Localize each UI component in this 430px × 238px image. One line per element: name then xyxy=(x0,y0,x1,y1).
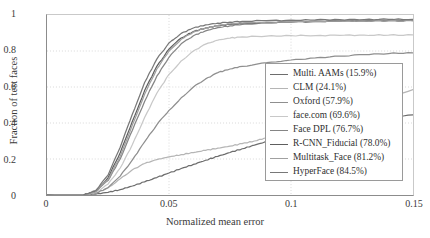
legend-swatch-line xyxy=(270,102,288,103)
xtick-label-0-05: 0.05 xyxy=(139,199,199,209)
legend-item[interactable]: Multitask_Face (81.2%) xyxy=(270,151,398,165)
xtick-label-0-15: 0.15 xyxy=(384,199,430,209)
legend-swatch-line xyxy=(270,116,288,117)
legend-item[interactable]: Oxford (57.9%) xyxy=(270,95,398,109)
legend-item[interactable]: Face DPL (76.7%) xyxy=(270,123,398,137)
legend-label: R-CNN_Fiducial (78.0%) xyxy=(293,139,390,148)
legend-swatch-line xyxy=(270,74,288,75)
legend-label: HyperFace (84.5%) xyxy=(293,167,367,176)
legend-swatch-line xyxy=(270,144,288,145)
legend-swatch-line xyxy=(270,172,288,173)
xtick-label-0-1: 0.1 xyxy=(261,199,321,209)
legend-swatch-line xyxy=(270,88,288,89)
legend-label: Multitask_Face (81.2%) xyxy=(293,153,384,162)
legend-item[interactable]: CLM (24.1%) xyxy=(270,81,398,95)
chart-legend: Multi. AAMs (15.9%)CLM (24.1%)Oxford (57… xyxy=(265,63,403,181)
legend-item[interactable]: Multi. AAMs (15.9%) xyxy=(270,67,398,81)
y-axis-label: Fraction of test faces xyxy=(8,26,19,176)
x-axis-label: Normalized mean error xyxy=(0,216,430,227)
legend-swatch-line xyxy=(270,130,288,131)
ytick-label-1: 1 xyxy=(0,9,16,19)
xtick-label-0: 0 xyxy=(16,199,76,209)
legend-swatch-line xyxy=(270,158,288,159)
legend-label: CLM (24.1%) xyxy=(293,83,346,92)
legend-item[interactable]: R-CNN_Fiducial (78.0%) xyxy=(270,137,398,151)
legend-label: Oxford (57.9%) xyxy=(293,97,353,106)
legend-label: Multi. AAMs (15.9%) xyxy=(293,69,376,78)
chart-figure: 0 0.2 0.4 0.6 0.8 1 0 0.05 0.1 0.15 Norm… xyxy=(0,0,430,238)
legend-item[interactable]: HyperFace (84.5%) xyxy=(270,165,398,179)
legend-label: face.com (69.6%) xyxy=(293,111,360,120)
legend-label: Face DPL (76.7%) xyxy=(293,125,363,134)
legend-item[interactable]: face.com (69.6%) xyxy=(270,109,398,123)
ytick-label-0: 0 xyxy=(0,191,16,201)
